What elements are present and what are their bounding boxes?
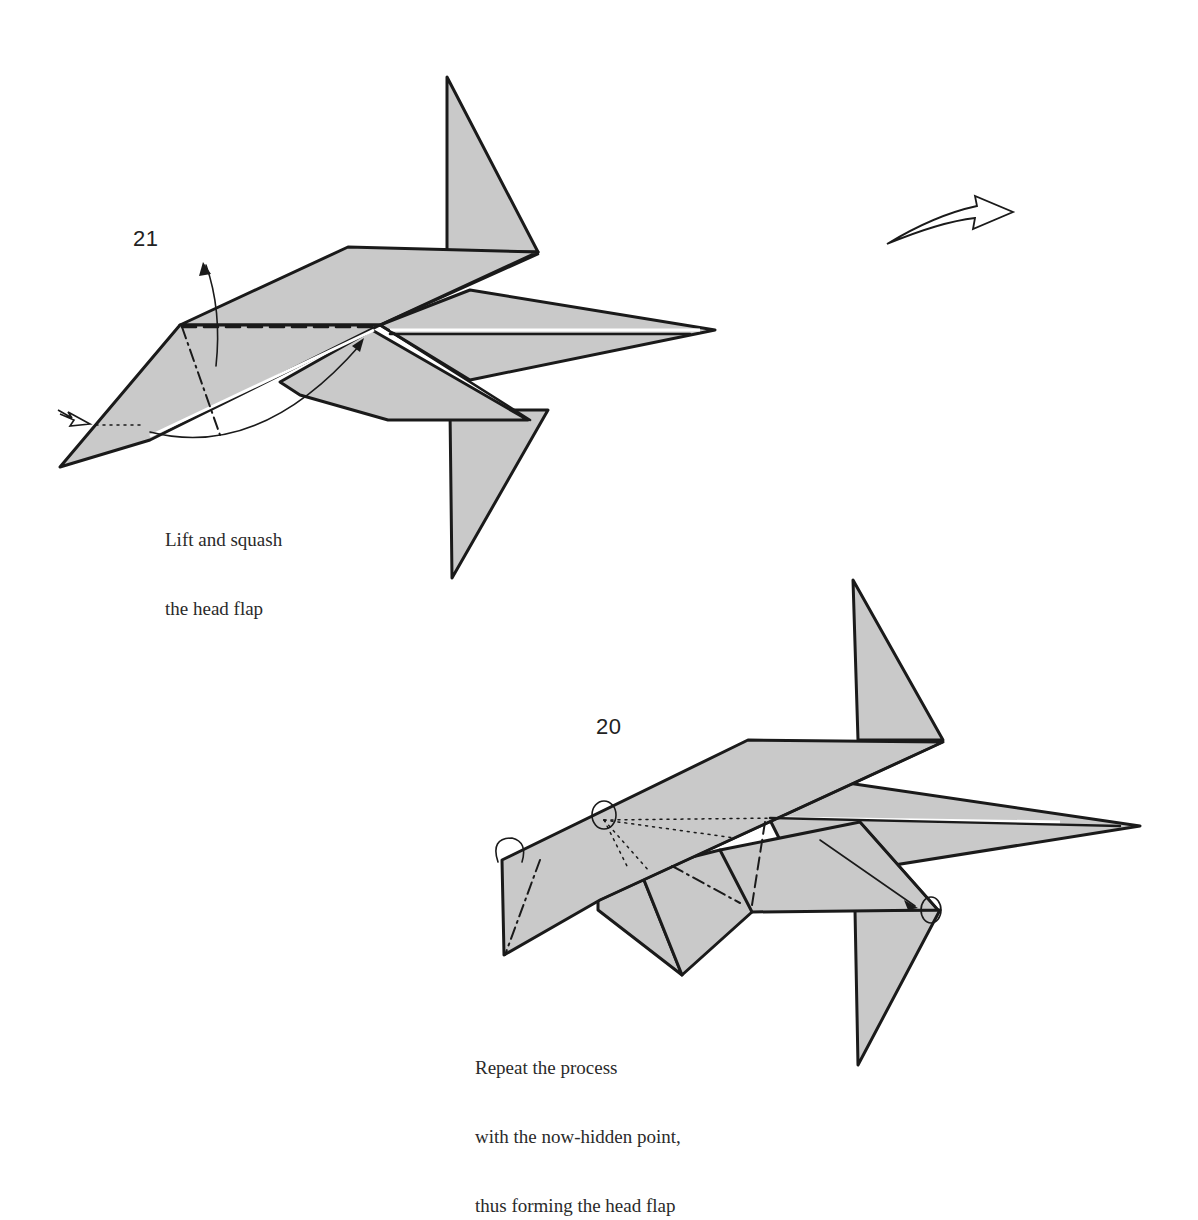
push-arrow-icon (58, 410, 90, 426)
caption-line: the head flap (165, 597, 282, 620)
step-number: 20 (596, 714, 621, 740)
caption-line: thus forming the head flap (475, 1194, 681, 1217)
hollow-arrow-icon (887, 196, 1013, 244)
caption-line: with the now-hidden point, (475, 1125, 681, 1148)
step-caption: Lift and squash the head flap (165, 482, 282, 666)
caption-line: Repeat the process (475, 1056, 681, 1079)
bottom-point-flap-20 (855, 910, 940, 1065)
top-point-flap-20 (853, 580, 943, 740)
step-caption: Repeat the process with the now-hidden p… (475, 1010, 681, 1220)
step-number: 21 (133, 226, 158, 252)
caption-line: Lift and squash (165, 528, 282, 551)
bottom-point-flap (450, 410, 548, 578)
top-point-flap (447, 77, 538, 252)
